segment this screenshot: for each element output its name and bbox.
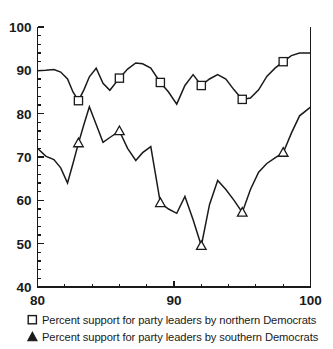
axis-ticks xyxy=(38,27,311,287)
x-axis-tick-labels: 8090100 xyxy=(30,293,322,308)
marker-triangle xyxy=(197,241,207,250)
legend-label-northern: Percent support for party leaders by nor… xyxy=(42,314,316,326)
y-tick-label: 100 xyxy=(9,20,32,35)
y-tick-label: 80 xyxy=(16,107,31,122)
marker-triangle xyxy=(278,148,288,157)
y-axis-tick-labels: 405060708090100 xyxy=(9,20,32,295)
y-tick-label: 50 xyxy=(16,237,31,252)
marker-square xyxy=(197,81,205,89)
y-tick-label: 60 xyxy=(16,193,31,208)
triangle-icon xyxy=(26,330,39,343)
series-line-southern xyxy=(38,107,311,246)
marker-square xyxy=(115,74,123,82)
chart-figure: 405060708090100 8090100 Percent support … xyxy=(0,0,333,349)
chart-legend: Percent support for party leaders by nor… xyxy=(26,311,326,345)
legend-label-southern: Percent support for party leaders by sou… xyxy=(42,331,318,343)
marker-square xyxy=(156,78,164,86)
marker-square xyxy=(279,58,287,66)
marker-triangle xyxy=(156,198,166,207)
x-tick-label: 90 xyxy=(166,293,181,308)
y-tick-label: 90 xyxy=(16,63,31,78)
x-tick-label: 100 xyxy=(299,293,322,308)
axis-frame xyxy=(38,27,311,287)
marker-square xyxy=(238,95,246,103)
y-tick-label: 70 xyxy=(16,150,31,165)
data-series xyxy=(38,53,311,246)
square-icon xyxy=(26,313,39,326)
marker-square xyxy=(74,97,82,105)
plot-area: 405060708090100 8090100 xyxy=(0,0,333,349)
marker-triangle xyxy=(115,126,125,135)
axes xyxy=(38,27,311,287)
legend-item-northern: Percent support for party leaders by nor… xyxy=(26,311,326,328)
x-tick-label: 80 xyxy=(30,293,45,308)
legend-item-southern: Percent support for party leaders by sou… xyxy=(26,328,326,345)
marker-triangle xyxy=(74,138,84,147)
